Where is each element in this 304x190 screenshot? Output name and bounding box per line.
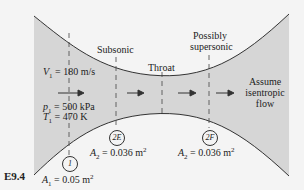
supersonic-line1: Possibly xyxy=(190,30,230,41)
inlet-velocity: V1 = 180 m/s xyxy=(43,66,95,77)
inlet-temperature: T1 = 470 K xyxy=(43,111,87,122)
station-1-marker: 1 xyxy=(62,156,78,172)
throat-label: Throat xyxy=(148,62,175,73)
assume-line3: flow xyxy=(243,98,287,109)
nozzle-diagram: Subsonic Throat Possibly supersonic Assu… xyxy=(0,0,304,190)
supersonic-line2: supersonic xyxy=(190,41,230,52)
possibly-supersonic-label: Possibly supersonic xyxy=(190,30,230,52)
velocity-value: = 180 m/s xyxy=(53,66,96,77)
temperature-value: = 470 K xyxy=(52,111,87,122)
station-1-area: A1 = 0.05 m2 xyxy=(42,174,94,185)
assume-isentropic-label: Assume isentropic flow xyxy=(243,76,287,109)
station-2e-marker: 2E xyxy=(109,130,125,146)
station-2f-marker: 2F xyxy=(202,130,218,146)
subsonic-label: Subsonic xyxy=(97,44,134,55)
station-2e-area: A2 = 0.036 m2 xyxy=(90,147,147,158)
assume-line1: Assume xyxy=(243,76,287,87)
station-2f-area: A2 = 0.036 m2 xyxy=(178,147,235,158)
figure-tag: E9.4 xyxy=(4,170,25,182)
assume-line2: isentropic xyxy=(243,87,287,98)
